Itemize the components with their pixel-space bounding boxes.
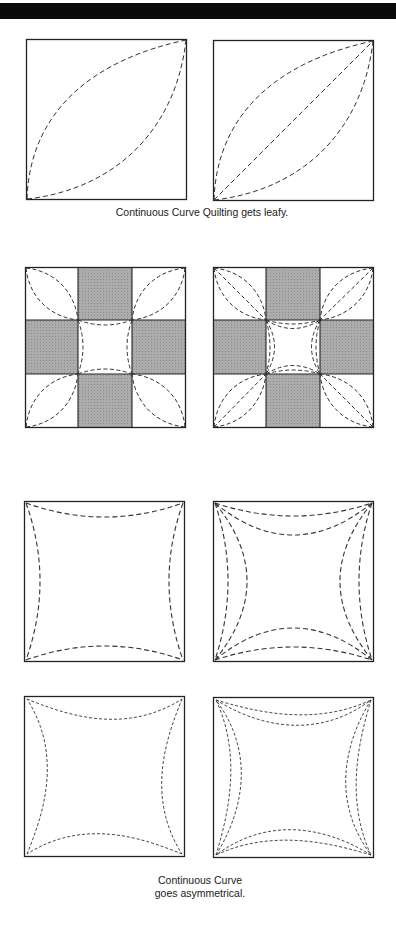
panel-leaf-with-diagonal — [213, 40, 375, 202]
square-arcs-single-diagram — [24, 501, 186, 663]
panel-nine-patch-double-leaf — [213, 267, 375, 429]
square-arcs-double-diagram — [213, 501, 375, 663]
panel-square-asym-single — [24, 696, 186, 858]
header-bar — [0, 3, 396, 19]
panel-leaf-single — [26, 39, 188, 201]
panel-square-arcs-double — [213, 501, 375, 663]
caption-leafy: Continuous Curve Quilting gets leafy. — [4, 206, 396, 219]
nine-patch-leaf-diagram — [25, 267, 187, 429]
caption-asym-line2: goes asymmetrical. — [2, 887, 396, 900]
leaf-single-diagram — [26, 39, 188, 201]
square-asym-double-diagram — [213, 697, 375, 859]
panel-square-asym-double — [213, 697, 375, 859]
panel-nine-patch-leaf — [25, 267, 187, 429]
nine-patch-double-leaf-diagram — [213, 267, 375, 429]
square-asym-single-diagram — [24, 696, 186, 858]
caption-asymmetrical: Continuous Curve goes asymmetrical. — [2, 874, 396, 900]
leaf-diagonal-diagram — [213, 40, 375, 202]
panel-square-arcs-single — [24, 501, 186, 663]
caption-asym-line1: Continuous Curve — [2, 874, 396, 887]
